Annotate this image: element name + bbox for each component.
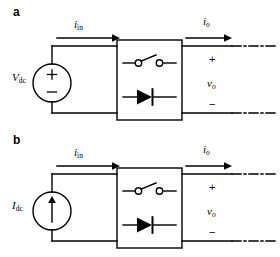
output-minus-label-b: − bbox=[209, 227, 215, 238]
diode-b bbox=[123, 217, 176, 233]
output-voltage-subscript-b: o bbox=[212, 210, 216, 219]
output-minus-label-a: − bbox=[209, 99, 215, 110]
open-switch-b bbox=[123, 183, 176, 194]
panel-b-schematic bbox=[0, 128, 280, 256]
input-current-arrow-b bbox=[57, 162, 120, 170]
voltage-source-subscript-a: dc bbox=[19, 76, 26, 85]
output-current-arrow-b bbox=[186, 162, 232, 170]
converter-box-a bbox=[117, 40, 182, 120]
output-current-subscript-a: o bbox=[206, 20, 210, 29]
output-current-label-a: io bbox=[203, 16, 210, 27]
input-current-arrow-a bbox=[57, 34, 120, 42]
output-current-label-b: io bbox=[203, 144, 210, 155]
current-source-arrow-b bbox=[48, 196, 56, 222]
output-current-arrow-a bbox=[186, 34, 232, 42]
current-source-label-b: Idc bbox=[12, 200, 23, 211]
voltage-source-label-a: Vdc bbox=[12, 72, 26, 83]
input-current-label-b: iin bbox=[74, 147, 83, 158]
panel-b: b bbox=[0, 128, 280, 256]
output-voltage-subscript-a: o bbox=[212, 82, 216, 91]
input-current-subscript-a: in bbox=[77, 23, 83, 32]
current-source-subscript-b: dc bbox=[16, 204, 23, 213]
circuit-figure: a bbox=[0, 0, 280, 257]
voltage-source-symbol-a: V bbox=[12, 71, 19, 83]
input-current-label-a: iin bbox=[74, 19, 83, 30]
source-plus-symbol-a bbox=[48, 70, 57, 79]
diode-a bbox=[123, 89, 176, 105]
panel-a: a bbox=[0, 0, 280, 128]
output-plus-label-b: + bbox=[209, 182, 215, 193]
output-voltage-label-b: vo bbox=[207, 206, 216, 217]
output-plus-label-a: + bbox=[209, 54, 215, 65]
panel-a-schematic bbox=[0, 0, 280, 128]
converter-box-b bbox=[117, 168, 182, 248]
input-current-subscript-b: in bbox=[77, 151, 83, 160]
open-switch-a bbox=[123, 55, 176, 66]
output-current-subscript-b: o bbox=[206, 148, 210, 157]
output-voltage-label-a: vo bbox=[207, 78, 216, 89]
